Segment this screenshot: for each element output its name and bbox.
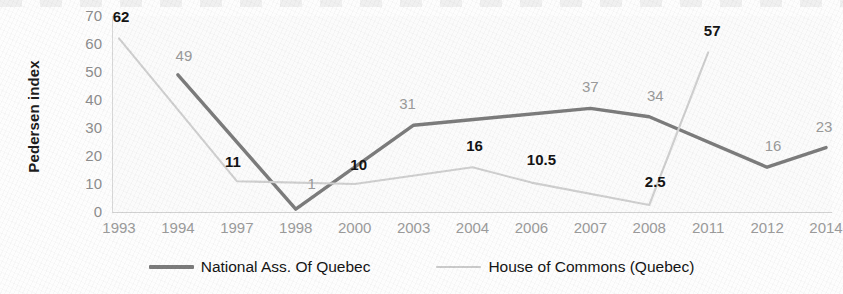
data-label-national-ass-of-quebec-2012: 16	[765, 138, 782, 153]
x-axis-tick-2008: 2008	[633, 220, 666, 236]
series-line-national-assembly	[178, 75, 826, 209]
x-axis-tick-2012: 2012	[750, 220, 783, 236]
data-label-national-ass-of-quebec-1998: 1	[308, 176, 316, 191]
series-lines	[113, 16, 832, 212]
legend-line-swatch-icon	[149, 265, 194, 269]
plot-area: 49131373416236211101610.52.557	[113, 16, 832, 212]
chart-legend: National Ass. Of QuebecHouse of Commons …	[0, 258, 843, 276]
data-label-house-of-commons-quebec-2008: 2.5	[645, 174, 666, 189]
scan-edge-artifact	[0, 0, 843, 7]
x-axis-tick-1997: 1997	[220, 220, 253, 236]
x-axis-tick-2007: 2007	[574, 220, 607, 236]
y-axis-tick-0: 0	[68, 204, 102, 219]
legend-line-swatch-icon	[436, 266, 481, 268]
legend-entry-house-of-commons[interactable]: House of Commons (Quebec)	[436, 258, 694, 276]
data-label-house-of-commons-quebec-1997: 11	[225, 154, 241, 169]
x-axis-tick-2003: 2003	[397, 220, 430, 236]
y-axis-tick-50: 50	[68, 64, 102, 79]
x-axis-tick-1998: 1998	[279, 220, 312, 236]
y-axis-tick-10: 10	[68, 176, 102, 191]
data-label-house-of-commons-quebec-2006: 10.5	[527, 151, 556, 166]
x-axis-tick-2000: 2000	[338, 220, 371, 236]
data-label-house-of-commons-quebec-2000: 10	[350, 157, 367, 172]
x-axis-tick-2006: 2006	[515, 220, 548, 236]
y-axis-tick-20: 20	[68, 148, 102, 163]
x-axis-tick-2011: 2011	[692, 220, 724, 236]
y-axis-title: Pedersen index	[25, 37, 42, 197]
x-axis-line	[112, 212, 832, 213]
data-label-national-ass-of-quebec-2007: 37	[582, 79, 599, 94]
data-label-national-ass-of-quebec-2014: 23	[816, 118, 833, 133]
x-axis-tick-1994: 1994	[161, 220, 194, 236]
legend-entry-national-assembly[interactable]: National Ass. Of Quebec	[149, 258, 371, 276]
data-label-national-ass-of-quebec-2003: 31	[399, 96, 416, 111]
data-label-house-of-commons-quebec-1993: 62	[113, 9, 130, 24]
data-label-house-of-commons-quebec-2004: 16	[466, 138, 483, 153]
data-label-national-ass-of-quebec-1994: 49	[176, 47, 193, 62]
x-axis-tick-1993: 1993	[102, 220, 135, 236]
data-label-house-of-commons-quebec-2011: 57	[704, 23, 721, 38]
legend-label: National Ass. Of Quebec	[201, 258, 371, 276]
chart-figure: Pedersen index 706050403020100 491313734…	[0, 0, 843, 294]
legend-label: House of Commons (Quebec)	[488, 258, 694, 276]
series-line-house-of-commons	[119, 38, 708, 205]
y-axis-tick-40: 40	[68, 92, 102, 107]
y-axis-tick-30: 30	[68, 120, 102, 135]
y-axis-tick-60: 60	[68, 36, 102, 51]
x-axis-tick-2004: 2004	[456, 220, 489, 236]
y-axis-tick-70: 70	[68, 8, 102, 23]
x-axis-tick-2014: 2014	[809, 220, 842, 236]
data-label-national-ass-of-quebec-2008: 34	[647, 87, 664, 102]
